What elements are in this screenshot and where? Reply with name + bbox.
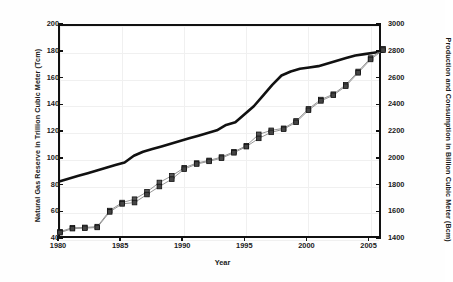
data-point-marker bbox=[170, 177, 175, 182]
y-axis-right-tick bbox=[376, 130, 381, 132]
data-point-marker bbox=[256, 136, 261, 141]
y-axis-right-tick-label: 1600 bbox=[388, 206, 428, 215]
y-axis-right-tick-label: 3000 bbox=[388, 19, 428, 28]
series-line bbox=[60, 51, 383, 181]
data-point-marker bbox=[294, 120, 299, 125]
y-axis-right-tick-label: 1400 bbox=[388, 233, 428, 242]
y-axis-right-tick-label: 2600 bbox=[388, 73, 428, 82]
y-axis-right-tick-label: 2400 bbox=[388, 99, 428, 108]
data-point-marker bbox=[343, 84, 348, 89]
y-axis-left-tick-label: 100 bbox=[19, 153, 59, 162]
x-axis-tick-label: 1995 bbox=[224, 241, 264, 250]
x-axis-tick-label: 1985 bbox=[100, 241, 140, 250]
plot-area bbox=[58, 24, 381, 238]
data-point-marker bbox=[83, 226, 88, 231]
data-point-marker bbox=[194, 162, 199, 167]
y-axis-left-tick-label: 120 bbox=[19, 126, 59, 135]
data-point-marker bbox=[232, 151, 237, 156]
data-point-marker bbox=[70, 226, 75, 231]
data-point-marker bbox=[107, 210, 112, 215]
x-axis-tick-label: 2005 bbox=[349, 241, 389, 250]
data-point-marker bbox=[207, 159, 212, 164]
y-axis-right-title: Production and Consumption in Billion Cu… bbox=[444, 38, 453, 234]
series-line bbox=[60, 50, 383, 233]
data-point-marker bbox=[157, 184, 162, 189]
y-axis-left-tick-label: 80 bbox=[19, 180, 59, 189]
y-axis-left-tick-label: 60 bbox=[19, 206, 59, 215]
y-axis-right-tick bbox=[376, 237, 381, 239]
y-axis-right-tick-label: 2200 bbox=[388, 126, 428, 135]
data-point-marker bbox=[244, 144, 249, 149]
x-axis-title: Year bbox=[0, 258, 445, 267]
y-axis-right-tick bbox=[376, 104, 381, 106]
data-point-marker bbox=[319, 99, 324, 104]
data-point-marker bbox=[368, 57, 373, 62]
data-point-marker bbox=[331, 93, 336, 98]
data-point-marker bbox=[281, 127, 286, 132]
x-axis-tick-label: 1980 bbox=[38, 241, 78, 250]
data-point-marker bbox=[145, 192, 150, 197]
y-axis-right-tick-label: 1800 bbox=[388, 180, 428, 189]
y-axis-left-tick-label: 160 bbox=[19, 73, 59, 82]
data-point-marker bbox=[219, 156, 224, 161]
y-axis-left-tick-label: 200 bbox=[19, 19, 59, 28]
data-point-marker bbox=[356, 71, 361, 76]
data-point-marker bbox=[132, 200, 137, 205]
y-axis-right-tick bbox=[376, 77, 381, 79]
data-point-marker bbox=[182, 167, 187, 172]
y-axis-right-tick bbox=[376, 211, 381, 213]
data-point-marker bbox=[269, 130, 274, 135]
y-axis-right-tick-label: 2800 bbox=[388, 46, 428, 55]
y-axis-right-tick bbox=[376, 50, 381, 52]
y-axis-right-tick bbox=[376, 23, 381, 25]
data-point-marker bbox=[381, 48, 386, 53]
y-axis-left-title: Natural Gas Reserve in Trillion Cubic Me… bbox=[33, 38, 42, 234]
y-axis-right-tick bbox=[376, 157, 381, 159]
y-axis-left-tick-label: 140 bbox=[19, 99, 59, 108]
x-axis-tick-label: 1990 bbox=[162, 241, 202, 250]
data-point-marker bbox=[95, 225, 100, 230]
y-axis-right-tick bbox=[376, 184, 381, 186]
data-series-layer bbox=[60, 26, 383, 240]
data-point-marker bbox=[306, 108, 311, 113]
y-axis-right-tick-label: 2000 bbox=[388, 153, 428, 162]
x-axis-tick-label: 2000 bbox=[286, 241, 326, 250]
series-line bbox=[60, 49, 383, 232]
y-axis-left-tick-label: 180 bbox=[19, 46, 59, 55]
data-point-marker bbox=[120, 202, 125, 207]
